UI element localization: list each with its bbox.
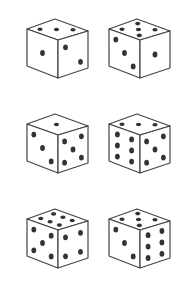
left-pip	[40, 240, 45, 246]
die	[26, 113, 92, 177]
right-pip	[79, 133, 84, 139]
top-pip	[119, 27, 124, 31]
top-pip	[137, 224, 142, 228]
die	[108, 208, 174, 272]
right-pip	[161, 155, 166, 161]
right-pip	[146, 232, 151, 238]
left-pip	[131, 64, 136, 70]
top-pip	[135, 22, 140, 26]
top-pip	[136, 28, 141, 32]
die-right-face	[140, 221, 170, 268]
top-pip	[70, 28, 75, 32]
right-pip	[62, 139, 67, 145]
right-pip	[153, 147, 158, 153]
right-pip	[79, 155, 84, 161]
right-pip	[78, 230, 83, 236]
top-pip	[152, 28, 157, 32]
left-pip	[49, 254, 54, 260]
right-pip	[160, 228, 165, 234]
top-pip	[119, 122, 124, 126]
right-pip	[144, 160, 149, 166]
top-pip	[119, 217, 124, 221]
die	[26, 208, 92, 272]
left-pip	[31, 227, 36, 233]
left-pip	[40, 145, 45, 151]
right-pip	[146, 244, 151, 250]
top-pip	[54, 123, 59, 127]
right-pip	[144, 139, 149, 145]
left-pip	[129, 159, 134, 165]
right-pip	[161, 133, 166, 139]
right-pip	[160, 240, 165, 246]
left-pip	[129, 148, 134, 154]
top-pip	[135, 212, 140, 216]
top-pip	[37, 27, 42, 31]
left-pip	[115, 132, 120, 138]
right-pip	[146, 255, 151, 261]
top-pip	[136, 218, 141, 222]
top-pip	[48, 220, 53, 224]
top-pip	[38, 217, 43, 221]
right-pip	[62, 160, 67, 166]
top-pip	[137, 34, 142, 38]
die-right-face	[58, 221, 88, 268]
left-pip	[115, 154, 120, 160]
top-pip	[60, 215, 65, 219]
left-pip	[131, 254, 136, 260]
left-pip	[49, 233, 54, 239]
right-pip	[71, 147, 76, 153]
right-pip	[63, 253, 68, 259]
right-pip	[160, 251, 165, 257]
right-pip	[78, 249, 83, 255]
die	[26, 18, 92, 82]
right-pip	[63, 44, 68, 50]
top-pip	[152, 218, 157, 222]
die-right-face	[58, 31, 88, 78]
top-pip	[70, 219, 75, 223]
die	[108, 113, 174, 177]
top-pip	[54, 28, 59, 32]
left-pip	[129, 137, 134, 143]
top-pip	[57, 223, 62, 227]
left-pip	[115, 143, 120, 149]
left-pip	[31, 247, 36, 253]
right-pip	[78, 59, 83, 65]
top-pip	[136, 123, 141, 127]
left-pip	[40, 50, 45, 56]
left-pip	[113, 37, 118, 43]
right-pip	[153, 52, 158, 58]
die	[108, 18, 174, 82]
left-pip	[122, 50, 127, 56]
left-pip	[122, 240, 127, 246]
left-pip	[49, 159, 54, 165]
left-pip	[113, 227, 118, 233]
right-pip	[63, 234, 68, 240]
top-pip	[51, 212, 56, 216]
top-pip	[152, 123, 157, 127]
left-pip	[31, 132, 36, 138]
